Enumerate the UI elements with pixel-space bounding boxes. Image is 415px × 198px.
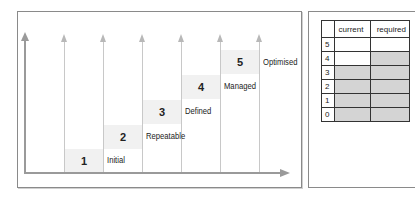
guide-arrow-icon: [178, 34, 184, 42]
row-level-label: 3: [322, 66, 335, 80]
step-4-block: 4: [182, 75, 220, 99]
step-5-block: 5: [221, 50, 259, 74]
step-4-number: 4: [198, 81, 204, 93]
step-3-number: 3: [159, 106, 165, 118]
step-1-block: 1: [65, 149, 103, 173]
required-cell-filled: [371, 108, 410, 122]
row-level-label: 1: [322, 94, 335, 108]
table-row: 2: [322, 80, 410, 94]
guide-arrow-icon: [139, 34, 145, 42]
step-2-block: 2: [104, 125, 142, 149]
step-2-number: 2: [120, 131, 126, 143]
current-cell: [335, 52, 371, 66]
table-row: 4: [322, 52, 410, 66]
table-row: 0: [322, 108, 410, 122]
y-axis: [24, 40, 26, 174]
guide-arrow-icon: [61, 34, 67, 42]
x-axis: [24, 172, 280, 174]
guide-arrow-icon: [100, 34, 106, 42]
table-row: 5: [322, 38, 410, 52]
row-level-label: 0: [322, 108, 335, 122]
row-level-label: 4: [322, 52, 335, 66]
required-cell: [371, 38, 410, 52]
step-1-number: 1: [81, 155, 87, 167]
guide-line-6: [259, 40, 260, 173]
step-5-number: 5: [237, 56, 243, 68]
step-3-label: Defined: [185, 106, 211, 116]
y-axis-arrow-icon: [21, 32, 29, 41]
guide-line-2: [103, 40, 104, 173]
table-header-corner: [322, 21, 335, 38]
row-level-label: 2: [322, 80, 335, 94]
required-cell-filled: [371, 66, 410, 80]
current-cell-filled: [335, 108, 371, 122]
guide-line-4: [181, 40, 182, 173]
guide-arrow-icon: [217, 34, 223, 42]
row-level-label: 5: [322, 38, 335, 52]
x-axis-arrow-icon: [280, 169, 290, 177]
step-4-label: Managed: [224, 81, 256, 91]
current-cell-filled: [335, 66, 371, 80]
current-cell-filled: [335, 94, 371, 108]
level-table: current required 5 4 3 2 1 0: [321, 20, 410, 122]
step-2-label: Repeatable: [146, 131, 185, 141]
table-row: 1: [322, 94, 410, 108]
table-header-current: current: [335, 21, 371, 38]
table-header-required: required: [371, 21, 410, 38]
step-1-label: Initial: [107, 155, 125, 165]
table-row: 3: [322, 66, 410, 80]
required-cell-filled: [371, 94, 410, 108]
guide-arrow-icon: [256, 34, 262, 42]
step-5-label: Optimised: [263, 57, 297, 67]
step-3-block: 3: [143, 100, 181, 124]
table-header-row: current required: [322, 21, 410, 38]
required-cell-filled: [371, 52, 410, 66]
current-cell: [335, 38, 371, 52]
current-cell-filled: [335, 80, 371, 94]
required-cell-filled: [371, 80, 410, 94]
